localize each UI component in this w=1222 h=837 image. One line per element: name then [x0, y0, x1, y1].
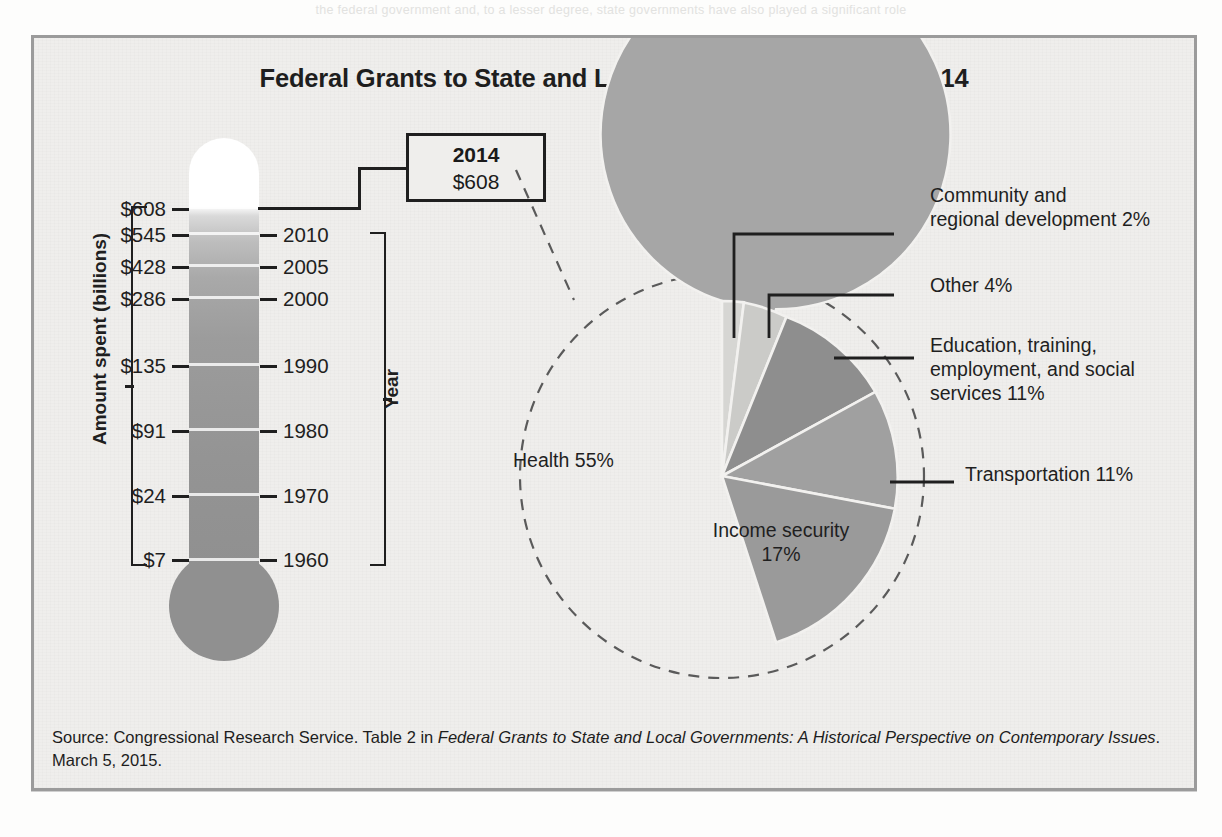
- pie-label-transportation: Transportation 11%: [965, 462, 1133, 486]
- pie-svg: [34, 38, 1194, 790]
- source-prefix: Source: Congressional Research Service. …: [52, 728, 438, 746]
- zoom-leader-dashed: [516, 170, 574, 300]
- pie-label-other: Other 4%: [930, 273, 1012, 297]
- pie-chart-area: Community and regional development 2% Ot…: [34, 38, 1194, 788]
- scanned-page: the federal government and, to a lesser …: [0, 0, 1222, 837]
- pie-label-income-security: Income security 17%: [696, 518, 866, 566]
- page-background-text: the federal government and, to a lesser …: [0, 0, 1222, 22]
- pie-label-education-training-employment-social-services: Education, training, employment, and soc…: [930, 333, 1135, 405]
- pie-label-health: Health 55%: [513, 448, 614, 472]
- figure-panel: Federal Grants to State and Local Govern…: [31, 35, 1197, 791]
- pie-label-community-regional-development: Community and regional development 2%: [930, 183, 1150, 231]
- source-title-italic: Federal Grants to State and Local Govern…: [438, 728, 1156, 746]
- source-note: Source: Congressional Research Service. …: [52, 726, 1170, 772]
